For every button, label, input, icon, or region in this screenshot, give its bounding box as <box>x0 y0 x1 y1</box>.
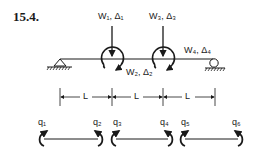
load-label-1: W₁, Δ₁ <box>98 11 124 21</box>
load-label-2: W₂, Δ₂ <box>126 67 153 77</box>
roller-support-icon <box>205 59 225 71</box>
dof-label-q6: q₆ <box>232 117 241 127</box>
load-moment-node-2 <box>153 26 175 70</box>
element-3 <box>181 131 243 146</box>
element-1 <box>40 131 103 146</box>
dof-label-q1: q₁ <box>38 117 46 127</box>
load-label-4: W₄, Δ₄ <box>184 45 211 55</box>
load-label-3: W₃, Δ₃ <box>149 11 176 21</box>
beam-diagram <box>0 0 260 156</box>
dof-label-q5: q₅ <box>181 117 190 127</box>
span-label-2: L <box>134 91 139 101</box>
pin-support-icon <box>47 59 72 70</box>
load-moment-node-1 <box>102 26 124 70</box>
element-2 <box>112 131 173 146</box>
dof-label-q3: q₃ <box>113 117 122 127</box>
span-label-1: L <box>83 91 88 101</box>
dof-label-q4: q₄ <box>160 117 169 127</box>
dof-label-q2: q₂ <box>93 117 102 127</box>
span-label-3: L <box>185 91 190 101</box>
